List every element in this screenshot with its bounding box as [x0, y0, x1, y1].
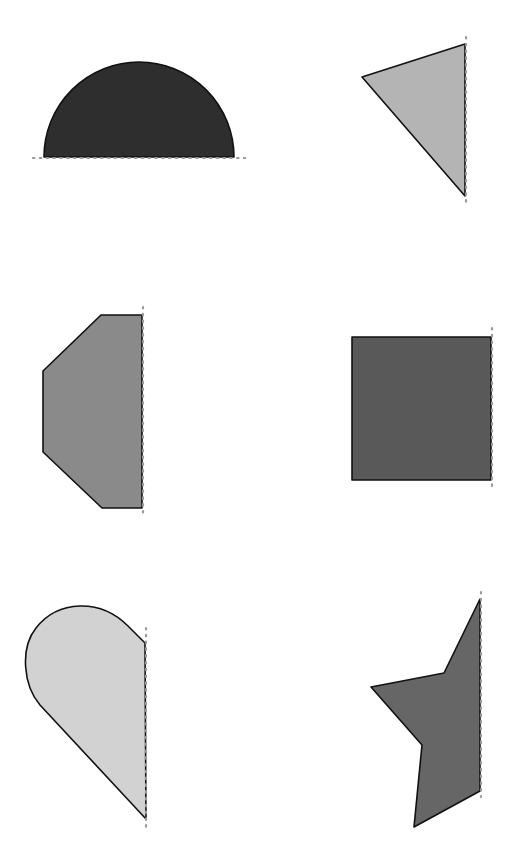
shape-group-half-octagon [43, 307, 143, 514]
shape-group-half-circle [33, 62, 247, 158]
square-shape [352, 337, 491, 480]
shape-group-half-star [371, 592, 481, 827]
half-circle-shape [44, 62, 234, 157]
shape-group-square [352, 328, 492, 488]
shape-layer [25, 37, 492, 830]
shape-group-triangle [362, 37, 466, 206]
shape-group-half-teardrop [25, 606, 146, 830]
half-star-shape [371, 599, 480, 827]
half-teardrop-shape [25, 606, 146, 819]
triangle-shape [362, 44, 465, 196]
shapes-diagram [0, 0, 525, 859]
half-octagon-shape [43, 315, 142, 508]
